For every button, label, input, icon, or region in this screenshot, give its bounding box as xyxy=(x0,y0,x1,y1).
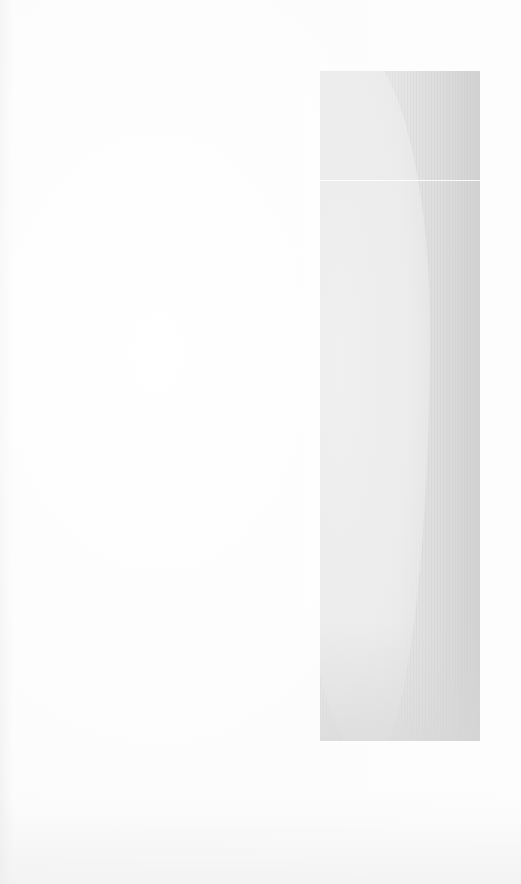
figure-bottom-shadow xyxy=(320,621,480,741)
gray-image-figure xyxy=(320,71,480,741)
scan-artifact-line xyxy=(320,180,480,181)
document-page xyxy=(0,0,521,884)
